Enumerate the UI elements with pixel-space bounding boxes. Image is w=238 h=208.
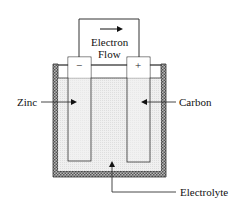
- zinc-carbon-cell-diagram: Electron Flow − + Zinc Carbon Electrolyt…: [0, 0, 238, 208]
- carbon-electrode: [127, 57, 150, 162]
- electron-flow-label-line1: Electron: [91, 37, 128, 48]
- zinc-electrode: [68, 57, 91, 161]
- positive-terminal-sign: +: [135, 60, 141, 71]
- electron-flow-label-line2: Flow: [98, 49, 121, 60]
- carbon-label: Carbon: [179, 97, 211, 108]
- electron-flow-arrow-icon: [100, 26, 123, 32]
- zinc-label: Zinc: [17, 97, 37, 108]
- negative-terminal-sign: −: [76, 60, 82, 71]
- electrolyte-label: Electrolyte: [180, 187, 228, 198]
